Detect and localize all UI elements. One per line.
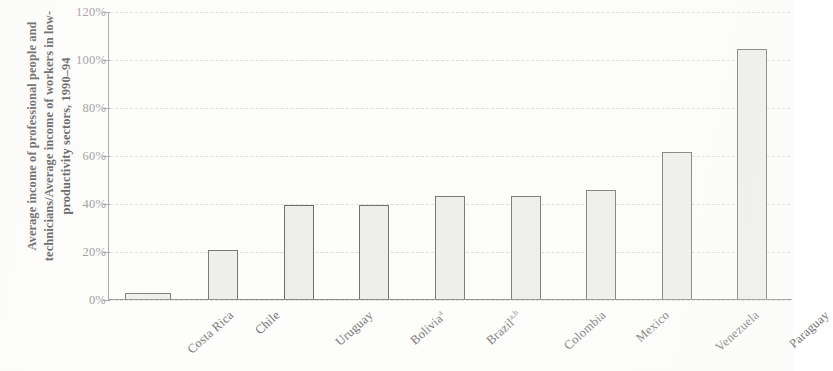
footnote-marker: a,b: [507, 308, 521, 321]
x-axis-tick-label: Chile: [253, 308, 284, 338]
y-axis-tickmark: [103, 60, 110, 61]
y-axis-tick-label: 0%: [62, 293, 106, 308]
y-axis-tickmark: [103, 252, 110, 253]
y-axis-tickmark: [103, 108, 110, 109]
y-axis-tick-label: 20%: [62, 245, 106, 260]
gridline: [110, 300, 790, 301]
bars-layer: [110, 12, 790, 300]
footnote-marker: a: [436, 308, 445, 317]
x-axis-line: [108, 299, 792, 300]
bar: [737, 49, 767, 300]
bar: [359, 205, 389, 300]
y-axis-tick-label: 120%: [62, 5, 106, 20]
x-axis-tick-label: Boliviaa: [407, 308, 449, 348]
y-axis-tick-label: 40%: [62, 197, 106, 212]
y-axis-tickmark: [103, 12, 110, 13]
bar: [511, 196, 541, 300]
x-axis-tick-label: Costa Rica: [184, 308, 236, 357]
x-axis-tick-label: Venezuela: [712, 308, 762, 355]
y-axis-tick-label: 60%: [62, 149, 106, 164]
y-axis-tickmark: [103, 156, 110, 157]
y-axis-tickmark: [103, 300, 110, 301]
x-axis-tick-label: Mexico: [633, 308, 673, 346]
bar: [435, 196, 465, 300]
bar: [284, 205, 314, 300]
y-axis-tickmark: [103, 204, 110, 205]
bar: [208, 250, 238, 300]
x-axis-tick-labels: Costa RicaChileUruguayBoliviaaBrazila,bC…: [110, 302, 790, 371]
y-axis-tick-labels: 0%20%40%60%80%100%120%: [62, 0, 106, 310]
x-axis-tick-label: Uruguay: [333, 308, 377, 350]
plot-area: [110, 12, 790, 300]
y-axis-tick-label: 100%: [62, 53, 106, 68]
x-axis-tick-label: Brazila,b: [483, 308, 525, 348]
x-axis-tick-label: Paraguay: [787, 308, 833, 352]
bar: [662, 152, 692, 300]
y-axis-tick-label: 80%: [62, 101, 106, 116]
x-axis-tick-label: Colombia: [561, 308, 609, 353]
bar: [586, 190, 616, 300]
